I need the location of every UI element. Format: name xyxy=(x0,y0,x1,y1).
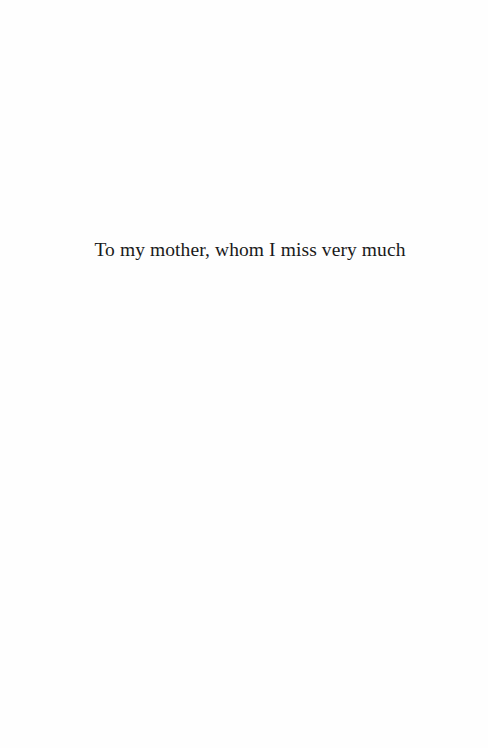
dedication-block: To my mother, whom I miss very much xyxy=(6,238,488,262)
book-page: To my mother, whom I miss very much xyxy=(0,0,488,748)
dedication-text: To my mother, whom I miss very much xyxy=(94,239,405,260)
